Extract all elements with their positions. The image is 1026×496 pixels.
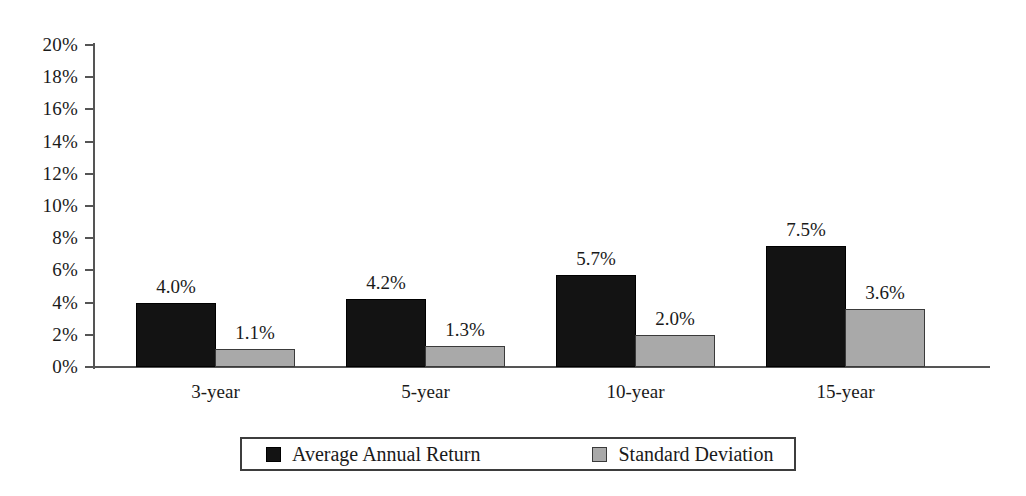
- y-axis-tick-label-text: 0%: [0, 357, 78, 376]
- plot-area: 4.0%1.1%4.2%1.3%5.7%2.0%7.5%3.6%: [94, 45, 990, 367]
- legend-item-average-annual-return: Average Annual Return: [266, 444, 480, 464]
- y-axis-tick-label-text: 20%: [0, 35, 78, 54]
- bar-15-year-series-1: [845, 309, 925, 367]
- y-axis-tick-label: 10%: [0, 196, 78, 215]
- bar-value-label: 4.2%: [336, 273, 436, 292]
- y-axis-tick-label-text: 6%: [0, 260, 78, 279]
- y-axis-tick: [85, 141, 94, 143]
- y-axis-tick-label: 16%: [0, 99, 78, 118]
- y-axis-tick: [85, 44, 94, 46]
- y-axis-tick-label: 12%: [0, 164, 78, 183]
- bar-value-label: 3.6%: [835, 283, 935, 302]
- bar-value-label: 7.5%: [756, 220, 856, 239]
- y-axis-tick: [85, 302, 94, 304]
- y-axis-tick-label: 4%: [0, 293, 78, 312]
- y-axis-tick-label: 14%: [0, 132, 78, 151]
- bar-value-label: 5.7%: [546, 249, 646, 268]
- y-axis-tick-label: 18%: [0, 67, 78, 86]
- y-axis-tick-label: 6%: [0, 260, 78, 279]
- bar-3-year-series-0: [136, 303, 216, 367]
- x-axis-label-10-year: 10-year: [536, 381, 735, 403]
- y-axis-tick: [85, 173, 94, 175]
- y-axis-tick-label-text: 16%: [0, 99, 78, 118]
- bar-value-label: 1.3%: [415, 320, 515, 339]
- y-axis-tick-label-text: 2%: [0, 325, 78, 344]
- y-axis-tick-label-text: 14%: [0, 132, 78, 151]
- bar-chart: 20%18%16%14%12%10%8%6%4%2%0% 4.0%1.1%4.2…: [0, 0, 1026, 496]
- y-axis-tick: [85, 237, 94, 239]
- y-axis-tick: [85, 76, 94, 78]
- bar-10-year-series-0: [556, 275, 636, 367]
- y-axis-tick-label-text: 10%: [0, 196, 78, 215]
- bar-value-label: 4.0%: [126, 277, 226, 296]
- bar-value-label: 2.0%: [625, 309, 725, 328]
- legend-swatch-icon-standard-deviation: [592, 447, 607, 462]
- y-axis-tick-label-text: 12%: [0, 164, 78, 183]
- y-axis-tick: [85, 366, 94, 368]
- y-axis-tick-label-text: 8%: [0, 228, 78, 247]
- bar-15-year-series-0: [766, 246, 846, 367]
- y-axis-tick: [85, 108, 94, 110]
- y-axis-tick-label: 2%: [0, 325, 78, 344]
- y-axis-tick: [85, 334, 94, 336]
- legend-swatch-icon-average-annual-return: [266, 447, 281, 462]
- legend-label-standard-deviation: Standard Deviation: [618, 444, 773, 464]
- y-axis-tick-label-text: 4%: [0, 293, 78, 312]
- y-axis-tick-label: 20%: [0, 35, 78, 54]
- bar-5-year-series-1: [425, 346, 505, 367]
- legend-label-average-annual-return: Average Annual Return: [292, 444, 480, 464]
- bar-3-year-series-1: [215, 349, 295, 367]
- y-axis-tick-label-text: 18%: [0, 67, 78, 86]
- y-axis-tick-label: 8%: [0, 228, 78, 247]
- x-axis-label-5-year: 5-year: [326, 381, 525, 403]
- bar-5-year-series-0: [346, 299, 426, 367]
- legend-item-standard-deviation: Standard Deviation: [592, 444, 773, 464]
- x-axis-label-3-year: 3-year: [116, 381, 315, 403]
- chart-legend: Average Annual Return Standard Deviation: [240, 437, 796, 471]
- y-axis-tick-label: 0%: [0, 357, 78, 376]
- y-axis-tick: [85, 205, 94, 207]
- x-axis-label-15-year: 15-year: [746, 381, 945, 403]
- bar-10-year-series-1: [635, 335, 715, 367]
- bar-value-label: 1.1%: [205, 323, 305, 342]
- y-axis-tick: [85, 269, 94, 271]
